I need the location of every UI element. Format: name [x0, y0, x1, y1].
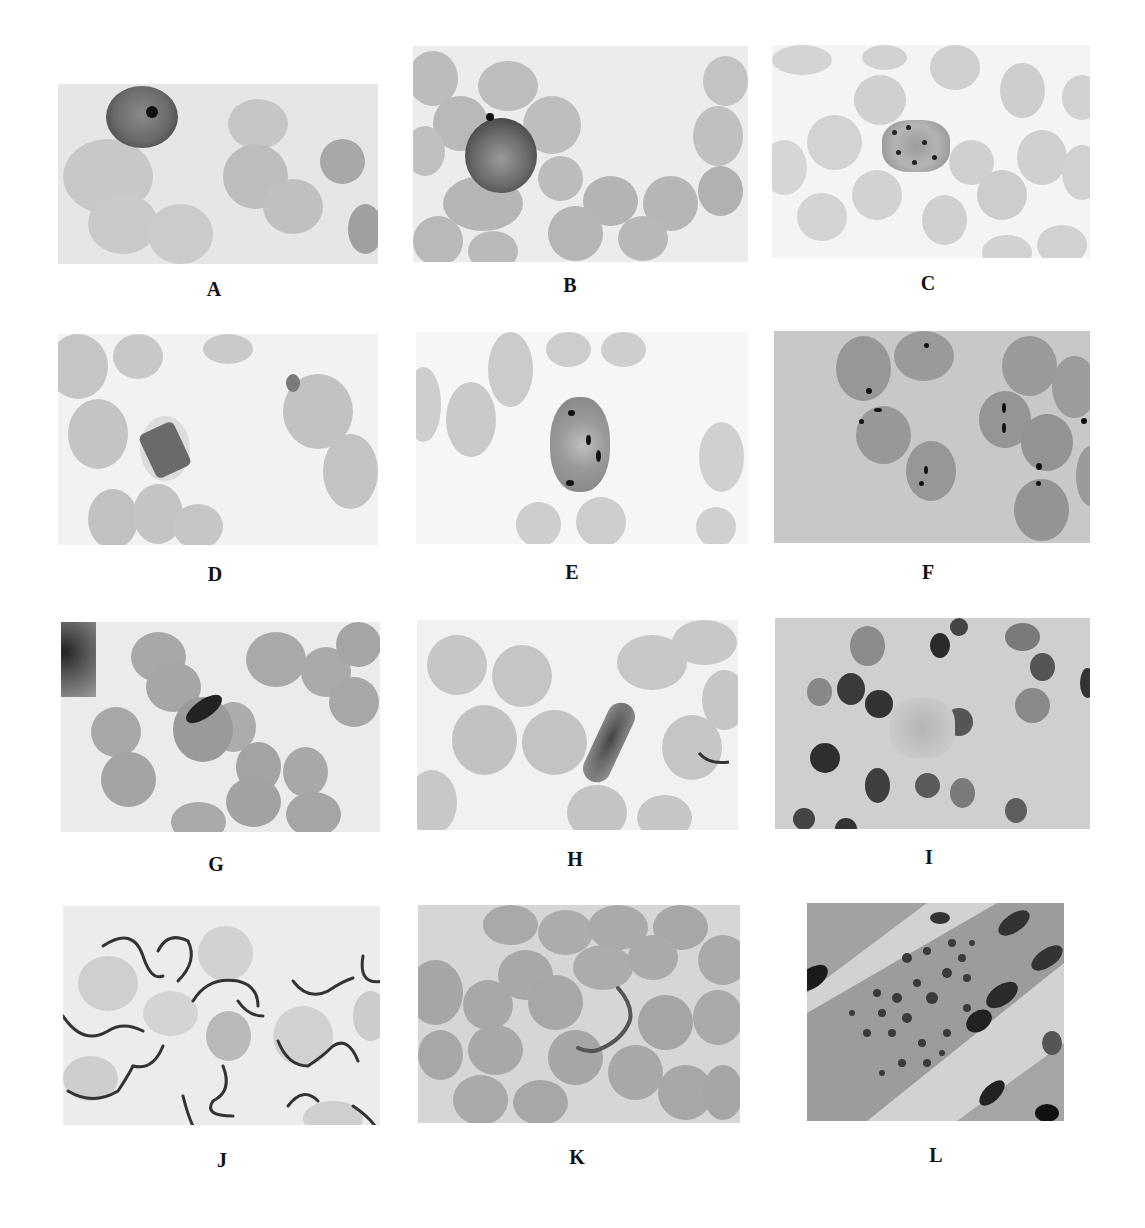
red-blood-cell — [1052, 356, 1090, 418]
red-blood-cell — [516, 502, 561, 544]
red-blood-cell — [348, 204, 378, 254]
red-blood-cell — [416, 367, 441, 442]
tissue-nucleus — [835, 818, 857, 829]
tissue-nucleus — [865, 768, 890, 803]
red-blood-cell — [478, 61, 538, 111]
red-blood-cell — [618, 216, 668, 261]
panel-label-j: J — [217, 1150, 227, 1170]
red-blood-cell — [797, 193, 847, 241]
red-blood-cell — [696, 507, 736, 544]
micrograph-panel-a — [58, 84, 378, 264]
tissue-nucleus — [865, 690, 893, 718]
exoerythrocytic-schizont — [890, 698, 955, 758]
trypanosomes — [63, 906, 380, 1125]
red-blood-cell — [852, 170, 902, 220]
micrograph-panel-h — [417, 620, 738, 830]
red-blood-cell — [703, 56, 748, 106]
red-blood-cell — [263, 179, 323, 234]
merozoite-dot — [922, 140, 927, 145]
red-blood-cell — [698, 166, 743, 216]
red-blood-cell — [336, 622, 380, 667]
red-blood-cell — [228, 99, 288, 149]
ring-stage-parasite — [1002, 403, 1006, 413]
red-blood-cell — [548, 206, 603, 261]
red-blood-cell — [246, 632, 306, 687]
micrograph-panel-c — [772, 45, 1090, 258]
micrograph-panel-d — [58, 334, 378, 545]
tissue-nucleus — [1005, 623, 1040, 651]
red-blood-cell — [854, 75, 906, 125]
red-blood-cell — [148, 204, 213, 264]
red-blood-cell — [1062, 145, 1090, 200]
red-blood-cell — [88, 194, 158, 254]
red-blood-cell — [1002, 336, 1057, 396]
red-blood-cell — [320, 139, 365, 184]
red-blood-cell — [1021, 414, 1073, 471]
parasite-chromatin-dot — [586, 435, 591, 445]
parasite-chromatin-dot — [146, 106, 158, 118]
red-blood-cell — [1014, 479, 1069, 541]
panel-label-k: K — [569, 1147, 585, 1167]
red-blood-cell — [922, 195, 967, 245]
ring-stage-parasite — [874, 408, 882, 412]
muscle-tissue — [807, 903, 1064, 1121]
tissue-nucleus — [950, 618, 968, 636]
tissue-nucleus — [915, 773, 940, 798]
red-blood-cell — [1000, 63, 1045, 118]
red-blood-cell — [101, 752, 156, 807]
red-blood-cell — [226, 777, 281, 827]
ring-stage-parasite — [1002, 423, 1006, 433]
tissue-nucleus — [810, 743, 840, 773]
tissue-nucleus — [807, 678, 832, 706]
panel-label-d: D — [208, 564, 222, 584]
panel-label-a: A — [207, 279, 221, 299]
leukocyte-debris — [61, 622, 96, 697]
panel-label-e: E — [565, 562, 578, 582]
panel-label-f: F — [922, 562, 934, 582]
panel-label-l: L — [929, 1145, 942, 1165]
ring-stage-parasite — [866, 388, 872, 394]
red-blood-cell — [283, 747, 328, 797]
merozoite-dot — [896, 150, 901, 155]
parasite-chromatin-dot — [596, 450, 601, 462]
red-blood-cell — [906, 441, 956, 501]
red-blood-cell — [413, 216, 463, 262]
red-blood-cell — [171, 802, 226, 832]
panel-label-c: C — [921, 273, 935, 293]
red-blood-cell — [538, 156, 583, 201]
red-blood-cell — [468, 231, 518, 262]
tissue-nucleus — [1005, 798, 1027, 823]
panel-label-h: H — [567, 849, 583, 869]
merozoite-dot — [906, 125, 911, 130]
tissue-nucleus — [930, 633, 950, 658]
micrograph-panel-f — [774, 331, 1090, 543]
tissue-nucleus — [837, 673, 865, 705]
micrograph-panel-e — [416, 332, 748, 544]
tissue-nucleus — [793, 808, 815, 829]
tissue-nucleus — [950, 778, 975, 808]
parasite-chromatin-dot — [566, 480, 574, 486]
panel-label-g: G — [208, 854, 224, 874]
merozoite-dot — [892, 130, 897, 135]
red-blood-cell — [446, 382, 496, 457]
red-blood-cell — [113, 334, 163, 379]
red-blood-cell — [856, 406, 911, 464]
red-blood-cell — [1037, 225, 1087, 258]
micrograph-panel-b — [413, 46, 748, 262]
red-blood-cell — [329, 677, 379, 727]
red-blood-cell — [323, 434, 378, 509]
merozoite-dot — [932, 155, 937, 160]
parasite-infected-cell — [550, 397, 610, 492]
ring-stage-parasite — [924, 343, 929, 348]
tissue-nucleus — [1080, 668, 1090, 698]
red-blood-cell — [772, 45, 832, 75]
red-blood-cell — [68, 399, 128, 469]
red-blood-cell — [807, 115, 862, 170]
parasite-chromatin-dot — [486, 113, 494, 121]
ring-stage-parasite — [1036, 463, 1042, 470]
red-blood-cell — [1017, 130, 1067, 185]
red-blood-cell — [1076, 446, 1090, 506]
micrograph-panel-k — [418, 905, 740, 1123]
red-blood-cell — [930, 45, 980, 90]
red-blood-cell — [836, 336, 891, 401]
